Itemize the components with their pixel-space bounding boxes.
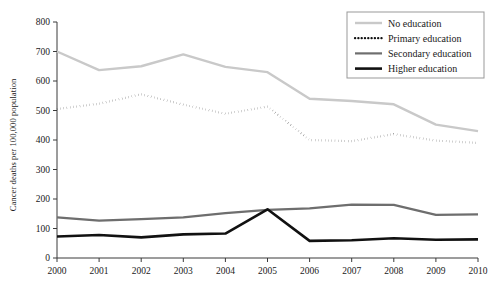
data-series-group — [57, 52, 478, 241]
legend-label-higher-education: Higher education — [388, 63, 457, 74]
x-tick-label: 2010 — [469, 266, 488, 276]
y-tick-label: 300 — [36, 165, 51, 175]
x-tick-label: 2003 — [174, 266, 193, 276]
x-tick-label: 2008 — [384, 266, 403, 276]
y-tick-label: 100 — [36, 224, 51, 234]
y-tick-label: 700 — [36, 47, 51, 57]
y-tick-label: 800 — [36, 17, 51, 27]
series-line-primary-education — [57, 94, 478, 143]
y-axis-ticks: 0100200300400500600700800 — [36, 17, 57, 263]
y-tick-label: 400 — [36, 135, 51, 145]
series-line-higher-education — [57, 209, 478, 241]
x-axis-ticks: 2000200120022003200420052006200720082009… — [48, 258, 488, 276]
x-tick-label: 2006 — [300, 266, 319, 276]
x-tick-label: 2004 — [216, 266, 235, 276]
y-tick-label: 600 — [36, 76, 51, 86]
legend-label-secondary-education: Secondary education — [388, 48, 472, 59]
legend-label-no-education: No education — [388, 18, 442, 29]
chart-legend: No educationPrimary educationSecondary e… — [347, 12, 484, 78]
x-tick-label: 2005 — [258, 266, 277, 276]
chart-container: Cancer deaths per 100,000 population 010… — [0, 0, 490, 290]
legend-label-primary-education: Primary education — [388, 33, 462, 44]
series-line-secondary-education — [57, 205, 478, 221]
x-tick-label: 2007 — [342, 266, 361, 276]
x-tick-label: 2000 — [48, 266, 67, 276]
x-tick-label: 2009 — [426, 266, 445, 276]
x-tick-label: 2002 — [132, 266, 151, 276]
line-chart-plot: 0100200300400500600700800 20002001200220… — [0, 0, 490, 290]
y-tick-label: 0 — [45, 253, 50, 263]
y-tick-label: 200 — [36, 194, 51, 204]
x-tick-label: 2001 — [90, 266, 109, 276]
y-tick-label: 500 — [36, 106, 51, 116]
